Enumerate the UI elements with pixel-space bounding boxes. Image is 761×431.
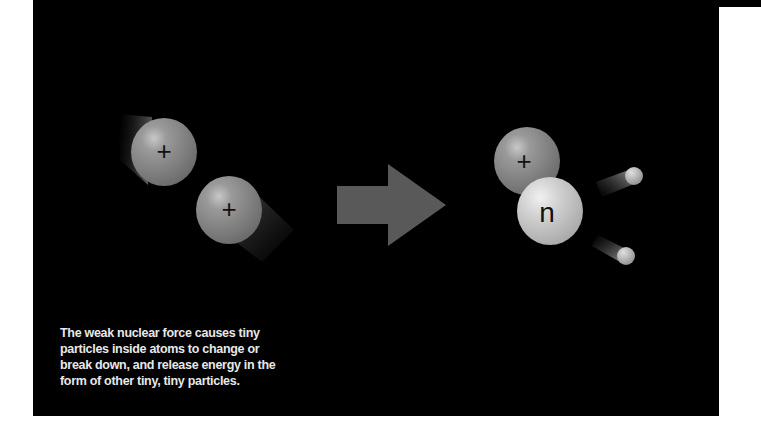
caption-line: break down, and release energy in the — [60, 357, 280, 373]
emitted-particle-2 — [592, 235, 635, 265]
arrow-right-icon — [337, 164, 446, 246]
caption-line: particles inside atoms to change or — [60, 341, 280, 357]
neutron-after: n — [517, 177, 583, 245]
caption-line: form of other tiny, tiny particles. — [60, 373, 280, 389]
proton-label: + — [516, 146, 531, 176]
proton-label: + — [156, 136, 171, 166]
caption-text: The weak nuclear force causes tiny parti… — [60, 325, 280, 389]
neutron-label: n — [539, 197, 555, 228]
proton-before-2: + — [196, 176, 294, 262]
caption-line: The weak nuclear force causes tiny — [60, 325, 280, 341]
emitted-particle-1 — [596, 167, 643, 197]
proton-before-1: + — [118, 114, 197, 186]
proton-label: + — [221, 194, 236, 224]
